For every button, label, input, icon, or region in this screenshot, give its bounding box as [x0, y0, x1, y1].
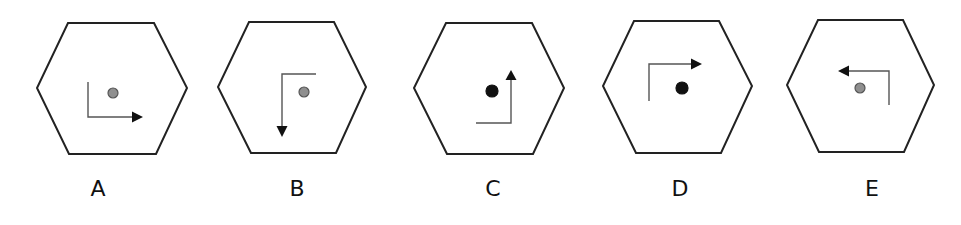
option-e	[787, 20, 934, 152]
option-b	[218, 22, 366, 153]
arrowhead-up-icon	[506, 70, 517, 80]
option-a	[37, 23, 187, 154]
arrowhead-left-icon	[838, 66, 849, 77]
option-d	[603, 21, 752, 153]
option-label-c: C	[485, 178, 500, 200]
option-label-b: B	[289, 178, 304, 200]
bent-arrow-line	[282, 74, 316, 126]
option-label-e: E	[865, 178, 879, 200]
puzzle-figure	[0, 0, 961, 225]
gray-dot-icon	[299, 87, 309, 97]
option-label-d: D	[672, 178, 689, 200]
arrowhead-right-icon	[132, 112, 143, 123]
option-label-a: A	[90, 178, 105, 200]
black-dot-icon	[676, 82, 688, 94]
hexagon-shape	[218, 22, 366, 153]
black-dot-icon	[486, 85, 498, 97]
arrowhead-right-icon	[691, 59, 702, 70]
gray-dot-icon	[108, 88, 118, 98]
option-c	[414, 23, 564, 154]
arrowhead-down-icon	[277, 126, 288, 137]
gray-dot-icon	[855, 83, 865, 93]
bent-arrow-line	[88, 82, 132, 117]
